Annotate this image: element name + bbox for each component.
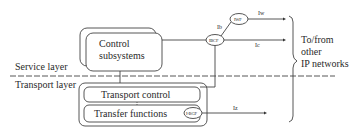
control-subsystems-label-1: Control [99,38,130,49]
iw-arrowhead [283,18,286,21]
external-label-3: IP networks [301,58,349,69]
ibcf-label: IBCF [209,38,218,43]
iwf-label: IWF [234,17,242,22]
service-layer-label: Service layer [15,61,67,72]
external-label-2: other [301,46,322,57]
transfer-functions-label: Transfer functions [94,108,167,119]
iw-label: Iw [258,10,264,16]
ibcf-iwf-link [221,22,231,36]
networks-brace [289,16,297,122]
ib-label: Ib [217,24,222,30]
ic-arrowhead [283,39,286,42]
iz-label: Iz [233,105,238,111]
transport-control-label: Transport control [101,89,170,100]
external-label-1: To/from [301,34,334,45]
bgf-label: I-BGF [186,111,197,116]
control-subsystems-label-2: subsystems [99,50,145,61]
transport-layer-label: Transport layer [15,79,76,90]
ic-label: Ic [255,42,260,48]
iz-arrowhead [264,112,267,115]
